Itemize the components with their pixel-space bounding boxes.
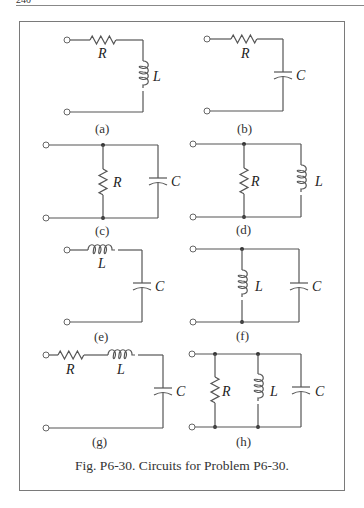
inductor-label: L	[152, 69, 161, 84]
resistor-icon	[211, 377, 219, 403]
resistor-label: R	[65, 362, 75, 377]
terminal-icon	[43, 425, 49, 431]
terminal-icon	[204, 36, 210, 42]
inductor-label: L	[269, 384, 278, 399]
inductor-icon	[254, 374, 263, 401]
figure-caption: Fig. P6-30. Circuits for Problem P6-30.	[19, 458, 345, 474]
circuit-d: R L (d)	[190, 141, 323, 237]
resistor-label: R	[240, 46, 250, 61]
inductor-icon	[238, 270, 247, 297]
circuit-label: (g)	[92, 434, 107, 449]
resistor-label: R	[250, 174, 260, 189]
circuit-label: (f)	[236, 328, 249, 343]
circuit-label: (h)	[236, 434, 251, 449]
resistor-icon	[231, 35, 257, 43]
capacitor-label: C	[315, 384, 325, 399]
terminal-icon	[64, 319, 70, 325]
terminal-icon	[190, 246, 196, 252]
capacitor-label: C	[171, 174, 181, 189]
terminal-icon	[190, 319, 196, 325]
circuit-h: R L C (h)	[189, 351, 325, 449]
terminal-icon	[190, 141, 196, 147]
resistor-icon	[58, 351, 84, 359]
inductor-icon	[297, 165, 306, 192]
terminal-icon	[204, 108, 210, 114]
circuit-g: R L C (g)	[43, 350, 186, 449]
terminal-icon	[43, 215, 49, 221]
inductor-label: L	[116, 362, 125, 377]
capacitor-label: C	[176, 384, 186, 399]
circuit-e: L C (e)	[64, 245, 165, 344]
circuit-figure: R L (a) R C (b) R C (c)	[0, 0, 364, 508]
capacitor-label: C	[312, 279, 322, 294]
circuit-label: (b)	[237, 121, 252, 136]
terminal-icon	[64, 37, 70, 43]
inductor-label: L	[254, 279, 263, 294]
circuit-a: R L (a)	[64, 36, 161, 136]
inductor-icon	[108, 350, 135, 359]
inductor-icon	[88, 245, 115, 254]
resistor-label: R	[221, 384, 231, 399]
resistor-icon	[240, 168, 248, 194]
circuit-label: (c)	[95, 223, 109, 238]
terminal-icon	[43, 352, 49, 358]
inductor-label: L	[97, 256, 106, 271]
inductor-label: L	[314, 174, 323, 189]
resistor-icon	[99, 169, 107, 195]
resistor-icon	[90, 36, 116, 44]
terminal-icon	[43, 142, 49, 148]
circuit-label: (a)	[95, 121, 109, 136]
circuit-f: L C (f)	[190, 246, 322, 343]
terminal-icon	[64, 109, 70, 115]
terminal-icon	[64, 247, 70, 253]
circuit-label: (d)	[236, 222, 251, 237]
circuit-b: R C (b)	[204, 35, 306, 136]
terminal-icon	[189, 351, 195, 357]
inductor-icon	[139, 61, 148, 88]
terminal-icon	[190, 214, 196, 220]
circuit-c: R C (c)	[43, 142, 181, 238]
capacitor-label: C	[296, 68, 306, 83]
terminal-icon	[189, 424, 195, 430]
circuit-label: (e)	[94, 329, 108, 344]
resistor-label: R	[97, 46, 107, 61]
capacitor-label: C	[155, 279, 165, 294]
resistor-label: R	[112, 175, 122, 190]
